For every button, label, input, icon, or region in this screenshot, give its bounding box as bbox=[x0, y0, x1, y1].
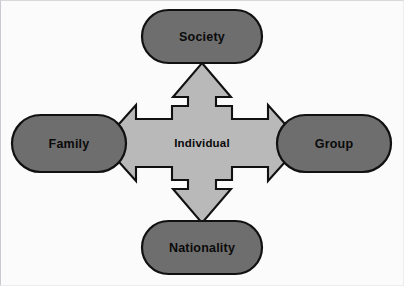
node-society[interactable] bbox=[142, 10, 262, 63]
node-nationality[interactable] bbox=[142, 221, 262, 274]
diagram-svg bbox=[0, 0, 404, 286]
diagram-canvas: Society Family Group Nationality Individ… bbox=[0, 0, 404, 286]
center-four-way-arrow[interactable] bbox=[102, 63, 302, 223]
family-pill-shape bbox=[12, 115, 126, 172]
node-group[interactable] bbox=[277, 115, 391, 172]
node-family[interactable] bbox=[12, 115, 126, 172]
nationality-pill-shape bbox=[142, 221, 262, 274]
society-pill-shape bbox=[142, 10, 262, 63]
group-pill-shape bbox=[277, 115, 391, 172]
